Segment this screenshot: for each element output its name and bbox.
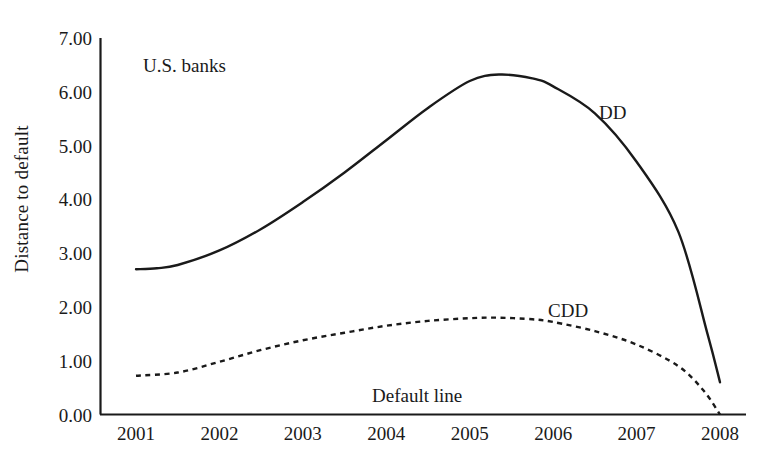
chart-figure: Distance to default 7.00 6.00 5.00 4.00 … <box>0 0 762 468</box>
annotation-default-line: Default line <box>372 386 462 405</box>
axis-lines <box>100 38 746 415</box>
annotation-dd-label: DD <box>599 103 626 122</box>
annotation-us-banks: U.S. banks <box>143 56 226 75</box>
annotation-cdd-label: CDD <box>548 301 588 320</box>
series-line-dd <box>136 75 720 383</box>
